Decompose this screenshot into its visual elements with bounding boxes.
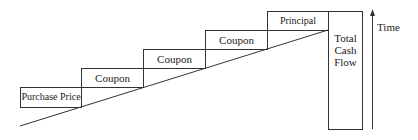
arrow-up-icon [370, 9, 375, 16]
diagonal-line [20, 30, 328, 126]
principal-label: Principal [267, 15, 329, 27]
total-cash-flow-box [329, 12, 363, 130]
coupon-label-3: Coupon [205, 34, 268, 46]
time-axis-label: Time [377, 21, 400, 33]
coupon-label-1: Coupon [81, 72, 144, 84]
cash-label: Cash [328, 44, 363, 56]
total-label: Total [328, 32, 363, 44]
coupon-label-2: Coupon [143, 53, 206, 65]
flow-label: Flow [328, 56, 363, 68]
diagram-canvas [0, 0, 418, 140]
purchase-price-label: Purchase Price [20, 91, 82, 103]
